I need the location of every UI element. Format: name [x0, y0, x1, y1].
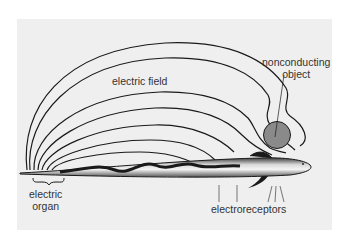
- electric-field-label: electric field: [112, 75, 167, 87]
- electric-organ-label: electric organ: [29, 188, 62, 212]
- nonconducting-object-label: nonconducting object: [262, 56, 330, 80]
- electric-organ-brace: [33, 178, 64, 185]
- pectoral-fin: [248, 176, 268, 188]
- fish-eye: [302, 163, 304, 165]
- nonconducting-object-label-line2: object: [262, 68, 330, 80]
- nonconducting-object-label-line1: nonconducting: [262, 56, 330, 68]
- electroreceptors-label: electroreceptors: [211, 203, 286, 215]
- electric-organ-label-line2: organ: [29, 200, 62, 212]
- electric-organ-label-line1: electric: [29, 188, 62, 200]
- electroreceptor-pointers: [219, 185, 284, 202]
- electric-fish: [20, 152, 311, 188]
